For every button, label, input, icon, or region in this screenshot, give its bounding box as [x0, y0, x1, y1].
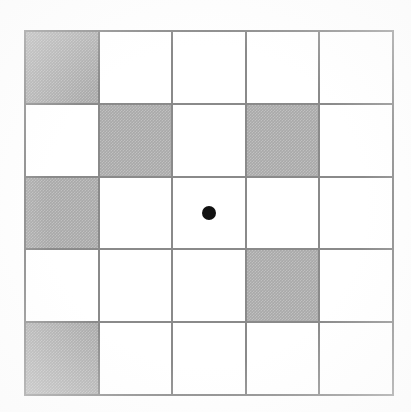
grid-cell-r3c4[interactable]: [247, 178, 319, 249]
marker-dot: [202, 206, 216, 220]
grid-cell-r2c3[interactable]: [173, 105, 245, 176]
grid-cell-r2c1[interactable]: [26, 105, 98, 176]
figure-canvas: [0, 0, 411, 412]
grid-cell-r3c3[interactable]: [173, 178, 245, 249]
grid-cell-r4c4[interactable]: [247, 250, 319, 321]
grid-cell-r2c4[interactable]: [247, 105, 319, 176]
grid-cell-r4c3[interactable]: [173, 250, 245, 321]
grid-cell-r4c2[interactable]: [100, 250, 172, 321]
grid-cell-r5c5[interactable]: [320, 323, 392, 394]
puzzle-grid: [24, 30, 394, 396]
grid-cell-r1c5[interactable]: [320, 32, 392, 103]
grid-cell-r5c2[interactable]: [100, 323, 172, 394]
grid-cell-r4c1[interactable]: [26, 250, 98, 321]
grid-cell-r3c2[interactable]: [100, 178, 172, 249]
grid-cell-r1c3[interactable]: [173, 32, 245, 103]
grid-cell-r1c1[interactable]: [26, 32, 98, 103]
grid-cell-r3c1[interactable]: [26, 178, 98, 249]
grid-cell-r2c5[interactable]: [320, 105, 392, 176]
grid-cell-r1c2[interactable]: [100, 32, 172, 103]
grid-cell-r5c3[interactable]: [173, 323, 245, 394]
grid-cell-r2c2[interactable]: [100, 105, 172, 176]
grid-cell-r4c5[interactable]: [320, 250, 392, 321]
grid-cell-r5c1[interactable]: [26, 323, 98, 394]
grid-cell-r1c4[interactable]: [247, 32, 319, 103]
grid-cell-r3c5[interactable]: [320, 178, 392, 249]
grid-cell-r5c4[interactable]: [247, 323, 319, 394]
